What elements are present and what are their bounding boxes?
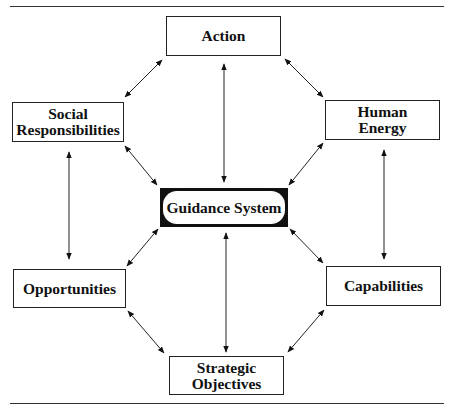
edge-social-guidance [125,146,157,185]
edge-capabilities-guidance [290,229,323,263]
edge-action-social [125,60,162,97]
node-capabilities: Capabilities [326,266,441,306]
edge-human-guidance [289,143,323,185]
node-strategic-objectives: Strategic Objectives [169,356,284,395]
node-guidance-system: Guidance System [160,188,288,227]
edge-opportunities-guidance [127,229,158,266]
node-opportunities-label: Opportunities [23,281,116,297]
node-social-label: Social Responsibilities [16,106,119,138]
node-strategic-label: Strategic Objectives [192,360,262,392]
node-action: Action [166,16,281,56]
node-guidance-label: Guidance System [163,191,285,224]
edge-action-human [285,59,323,97]
node-action-label: Action [202,28,246,44]
node-social-responsibilities: Social Responsibilities [12,102,124,142]
node-capabilities-label: Capabilities [344,278,423,294]
node-opportunities: Opportunities [13,269,126,308]
node-human-label: Human Energy [358,104,408,136]
edge-opportunities-strategic [128,311,164,353]
edge-capabilities-strategic [288,310,324,352]
node-human-energy: Human Energy [325,100,440,140]
